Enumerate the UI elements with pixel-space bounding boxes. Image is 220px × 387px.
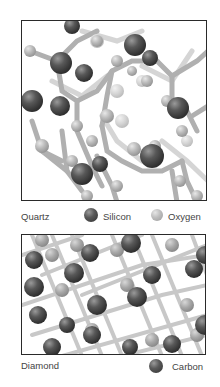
silicon-label: Silicon: [103, 211, 131, 223]
diamond-label: Diamond: [21, 360, 59, 372]
diamond-lattice-illustration: [22, 235, 206, 355]
quartz-lattice-illustration: [22, 21, 207, 201]
oxygen-label: Oxygen: [168, 211, 201, 223]
quartz-structure-panel: [21, 20, 207, 201]
quartz-label: Quartz: [21, 211, 50, 223]
carbon-atom-icon: [149, 359, 163, 373]
diamond-structure-panel: [21, 234, 206, 355]
carbon-label: Carbon: [172, 361, 203, 373]
silicon-atom-icon: [84, 208, 98, 222]
oxygen-atom-icon: [151, 209, 163, 221]
